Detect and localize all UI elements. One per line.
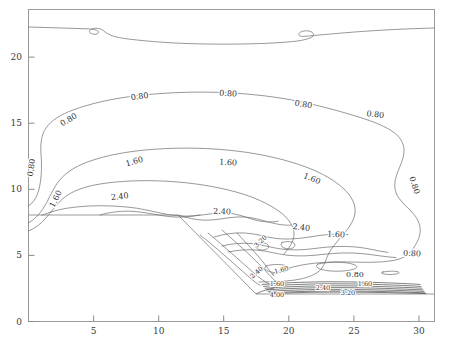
x-tick-label: 30: [413, 326, 425, 336]
contour-label-group: 1.60 1.60: [219, 158, 237, 168]
contour-label-group: 0.80 0.80: [407, 175, 421, 195]
contour-label-group: 1.60 1.60: [273, 264, 289, 276]
y-axis-tick-labels: 0 5 10 15 20: [11, 52, 23, 326]
x-tick-label: 5: [91, 326, 97, 336]
contour-label: 1.60: [327, 230, 345, 240]
contour-labels: 0.80 0.80 0.80 0.80 0.80 0.80 0.80 0.80 …: [26, 88, 422, 299]
contour-label: 4.00: [270, 291, 284, 299]
contour-label-group: 0.80 0.80: [294, 99, 313, 111]
y-tick-label: 5: [16, 250, 22, 260]
contour-label: 0.80: [403, 249, 421, 259]
contour-label-group: 1.60 1.60: [125, 155, 145, 169]
contour-label-group: 0.80 0.80: [130, 91, 149, 102]
x-axis-tick-labels: 5 10 15 20 25 30: [91, 326, 425, 336]
contour-label-group: 1.60 1.60: [270, 280, 284, 288]
contour-label: 2.40: [316, 284, 330, 292]
x-tick-label: 20: [283, 326, 295, 336]
contour-label: 1.60: [219, 158, 237, 168]
contour-label: 3.20: [341, 289, 355, 297]
contour-label: 3.20: [253, 234, 269, 250]
contour-label: 1.60: [125, 155, 145, 169]
contour-label-group: 1.60 1.60: [358, 280, 372, 288]
y-tick-label: 20: [11, 52, 23, 62]
contour-path-wave-d: [222, 243, 388, 252]
contour-path-160-tail: [259, 253, 329, 282]
y-tick-label: 0: [16, 317, 22, 327]
contour-label-group: 3.20 3.20: [253, 234, 269, 250]
contour-path-240-wiggle: [42, 206, 278, 222]
contour-label: 1.60: [270, 280, 284, 288]
contour-label: 1.60: [358, 280, 372, 288]
contour-blob-b: [281, 242, 295, 249]
contour-label-group: 1.60 1.60: [48, 189, 64, 209]
contour-label: 2.40: [110, 191, 129, 202]
contour-label: 0.80: [346, 270, 364, 279]
contour-label-group: 1.60 1.60: [327, 230, 345, 240]
contour-label: 0.80: [130, 91, 149, 102]
contour-label: 0.80: [26, 158, 37, 177]
contour-label: 0.80: [407, 175, 421, 195]
contour-label: 0.80: [294, 99, 313, 111]
contour-path-top: [29, 27, 435, 44]
contour-label: 0.80: [366, 109, 385, 120]
contour-label: 1.60: [302, 171, 322, 186]
contour-label-group: 2.40 2.40: [110, 191, 129, 202]
contour-label-group: 0.80 0.80: [219, 88, 237, 98]
x-axis-ticks: [94, 316, 419, 322]
contour-label: 1.60: [48, 189, 64, 209]
contour-label: 2.40: [292, 222, 311, 233]
contour-label-group: 1.60 1.60: [302, 171, 322, 186]
contour-label-group: 0.80 0.80: [26, 158, 37, 177]
x-tick-label: 10: [153, 326, 165, 336]
y-tick-label: 10: [11, 184, 23, 194]
contour-label-group: 0.80 0.80: [59, 111, 79, 128]
contour-path-080-outer: [29, 92, 421, 252]
contour-label: 2.40: [213, 207, 231, 217]
contour-path-wave-b: [178, 215, 293, 225]
contour-plot-figure: 5 10 15 20 25 30 0 5 10 15 20: [0, 0, 456, 358]
x-tick-label: 15: [218, 326, 230, 336]
y-axis-ticks: [29, 57, 35, 321]
contour-label: 0.80: [219, 88, 237, 98]
contour-label-group: 0.80 0.80: [366, 109, 385, 120]
contour-label-group: 2.40 2.40: [316, 284, 330, 292]
contour-label: 1.60: [273, 264, 289, 276]
y-tick-label: 15: [11, 118, 23, 128]
contour-label-group: 2.40 2.40: [292, 222, 311, 233]
contour-label-group: 3.20 3.20: [341, 289, 355, 297]
x-tick-label: 25: [348, 326, 360, 336]
contour-label: 0.80: [59, 111, 79, 128]
contour-blob-e: [381, 271, 399, 274]
contour-label-group: 4.00 4.00: [270, 291, 284, 299]
contour-label-group: 2.40 2.40: [213, 207, 231, 217]
contour-plot-canvas: 5 10 15 20 25 30 0 5 10 15 20: [0, 0, 456, 358]
contour-label-group: 0.80 0.80: [346, 270, 364, 279]
contour-label-group: 0.80 0.80: [403, 249, 421, 259]
